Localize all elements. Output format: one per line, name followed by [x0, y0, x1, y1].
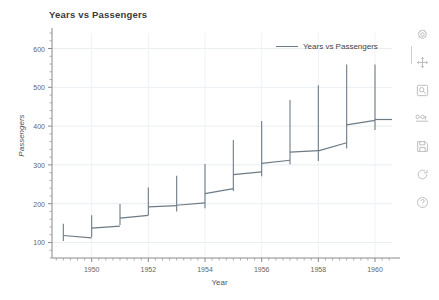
- svg-text:1952: 1952: [141, 266, 157, 273]
- curve-edit-button[interactable]: [412, 108, 432, 128]
- help-question-icon: [416, 196, 429, 209]
- magnifier-icon: [416, 84, 429, 97]
- move-cross-icon: [416, 56, 429, 69]
- save-floppy-icon: [416, 140, 429, 153]
- svg-text:400: 400: [33, 123, 45, 130]
- svg-text:200: 200: [33, 201, 45, 208]
- gridlines: [52, 33, 392, 258]
- svg-text:500: 500: [33, 84, 45, 91]
- pan-button[interactable]: [412, 52, 432, 72]
- svg-text:100: 100: [33, 239, 45, 246]
- svg-text:1954: 1954: [197, 266, 213, 273]
- svg-text:1950: 1950: [84, 266, 100, 273]
- axes: [52, 28, 400, 258]
- chart-application: Years vs Passengers Passengers Year 1002…: [0, 0, 439, 300]
- svg-text:600: 600: [33, 46, 45, 53]
- svg-text:300: 300: [33, 162, 45, 169]
- refresh-circle-icon: [416, 168, 429, 181]
- curve-edit-icon: [415, 112, 429, 125]
- svg-text:1958: 1958: [311, 266, 327, 273]
- chart-legend[interactable]: Years vs Passengers: [276, 42, 378, 51]
- chart-canvas[interactable]: Years vs Passengers Passengers Year 1002…: [0, 0, 405, 300]
- svg-text:1956: 1956: [254, 266, 270, 273]
- axis-tick-labels: 1002003004005006001950195219541956195819…: [33, 46, 383, 273]
- reset-button[interactable]: [412, 164, 432, 184]
- chart-toolbar[interactable]: [405, 24, 439, 212]
- toolbar-divider: [411, 46, 412, 64]
- svg-text:1960: 1960: [367, 266, 383, 273]
- data-series[interactable]: [63, 64, 392, 241]
- settings-button[interactable]: [412, 24, 432, 44]
- legend-label: Years vs Passengers: [303, 42, 378, 51]
- legend-line-swatch: [276, 46, 298, 47]
- zoom-button[interactable]: [412, 80, 432, 100]
- settings-gear-icon: [416, 28, 429, 41]
- help-button[interactable]: [412, 192, 432, 212]
- save-button[interactable]: [412, 136, 432, 156]
